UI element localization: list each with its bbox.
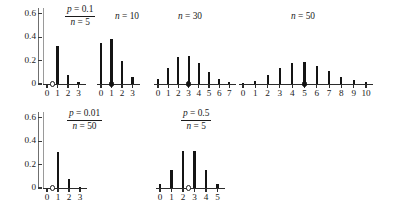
- bar: [67, 75, 69, 84]
- bar: [228, 82, 230, 84]
- bar: [170, 170, 172, 188]
- bar: [328, 71, 330, 84]
- x-axis-line: [154, 84, 236, 85]
- bar: [198, 63, 200, 84]
- panel-annotation: n = 50: [291, 11, 315, 22]
- bar: [188, 56, 190, 84]
- bar: [57, 152, 59, 188]
- bar: [193, 151, 195, 188]
- panel-row-bottom: 0.60.40.20 0123p = 0.01n = 50012345p = 0…: [0, 112, 393, 204]
- y-axis-tick: [38, 60, 42, 61]
- y-axis-line: [38, 112, 39, 188]
- panel-annotation: p = 0.5n = 5: [181, 108, 211, 132]
- mean-marker-filled-circle: [109, 81, 114, 86]
- mean-marker-open-circle: [186, 185, 191, 190]
- x-axis-line: [97, 84, 140, 85]
- plot-area: 0123p = 0.1n = 5: [47, 8, 95, 100]
- mean-marker-filled-circle: [302, 81, 307, 86]
- bar: [267, 75, 269, 84]
- bar: [167, 68, 169, 84]
- annotation-numerator: p = 0.01: [67, 108, 102, 121]
- bar: [157, 79, 159, 84]
- y-axis-tick: [38, 187, 42, 188]
- y-axis-label: 0.4: [25, 136, 36, 145]
- bar: [177, 57, 179, 84]
- y-axis-label: 0: [31, 79, 36, 88]
- plot-area: 012345p = 0.5n = 5: [160, 112, 234, 204]
- binomial-pmf-figure: 0.60.40.20 0123p = 0.1n = 50123n = 10012…: [0, 0, 393, 215]
- panel-left-rule: [43, 8, 44, 84]
- bar: [56, 46, 58, 84]
- plot-area: 01234567n = 30: [158, 8, 245, 100]
- panel-annotation: p = 0.1n = 5: [65, 4, 95, 28]
- bar: [208, 72, 210, 84]
- bar: [79, 187, 81, 188]
- plot-area: 0123p = 0.01n = 50: [47, 112, 96, 204]
- bar: [159, 184, 161, 188]
- bar: [218, 79, 220, 84]
- bar: [110, 39, 112, 84]
- mean-marker-open-circle: [50, 185, 55, 190]
- x-axis-label: 3: [70, 89, 88, 98]
- panel-annotation: p = 0.01n = 50: [67, 108, 102, 132]
- y-axis-label: 0.2: [25, 56, 36, 65]
- y-axis-line: [38, 8, 39, 84]
- panel-annotation: n = 30: [178, 11, 202, 22]
- bar: [316, 66, 318, 84]
- y-axis-label: 0: [31, 183, 36, 192]
- plot-area: 0123n = 10: [101, 8, 149, 100]
- y-axis-tick: [38, 117, 42, 118]
- y-axis-label: 0.4: [25, 32, 36, 41]
- annotation-numerator: p = 0.5: [181, 108, 211, 121]
- x-axis-label: 3: [124, 89, 142, 98]
- bar: [68, 179, 70, 188]
- annotation-numerator: p = 0.1: [65, 4, 95, 17]
- bar: [77, 82, 79, 84]
- x-axis-label: 5: [209, 193, 227, 202]
- x-axis-label: 10: [357, 89, 375, 98]
- chart-panel-p05-n5: 012345p = 0.5n = 5: [160, 112, 234, 204]
- chart-panel-p01-n30: 01234567n = 30: [158, 8, 245, 100]
- panel-left-rule: [43, 112, 44, 188]
- bar: [131, 77, 133, 84]
- panel-annotation: n = 10: [115, 11, 139, 22]
- bar: [279, 68, 281, 84]
- bar: [340, 77, 342, 84]
- y-axis-tick: [38, 141, 42, 142]
- annotation-denominator: n = 5: [65, 17, 95, 29]
- y-axis-bottom: 0.60.40.20: [0, 112, 46, 188]
- mean-marker-filled-circle: [186, 81, 191, 86]
- bar: [182, 151, 184, 188]
- chart-panel-p01-n10: 0123n = 10: [101, 8, 149, 100]
- x-axis-label: 3: [71, 193, 89, 202]
- bar: [353, 80, 355, 84]
- bar: [365, 82, 367, 84]
- y-axis-tick: [38, 13, 42, 14]
- mean-marker-open-circle: [50, 81, 55, 86]
- y-axis-tick: [38, 83, 42, 84]
- annotation-denominator: n = 5: [181, 121, 211, 133]
- annotation-denominator: n = 50: [67, 121, 102, 133]
- chart-panel-p01-n50: 012345678910n = 50: [243, 8, 382, 100]
- chart-panel-p01-n5: 0123p = 0.1n = 5: [47, 8, 95, 100]
- y-axis-label: 0.6: [25, 113, 36, 122]
- y-axis-label: 0.2: [25, 160, 36, 169]
- y-axis-tick: [38, 164, 42, 165]
- bar: [121, 61, 123, 84]
- chart-panel-p001-n50: 0123p = 0.01n = 50: [47, 112, 96, 204]
- bar: [100, 43, 102, 84]
- y-axis-label: 0.6: [25, 9, 36, 18]
- y-axis-top: 0.60.40.20: [0, 8, 46, 84]
- plot-area: 012345678910n = 50: [243, 8, 382, 100]
- bar: [216, 184, 218, 188]
- bar: [254, 81, 256, 84]
- bar: [205, 170, 207, 188]
- panel-row-top: 0.60.40.20 0123p = 0.1n = 50123n = 10012…: [0, 8, 393, 100]
- bar: [291, 63, 293, 84]
- bar: [242, 83, 244, 84]
- y-axis-tick: [38, 37, 42, 38]
